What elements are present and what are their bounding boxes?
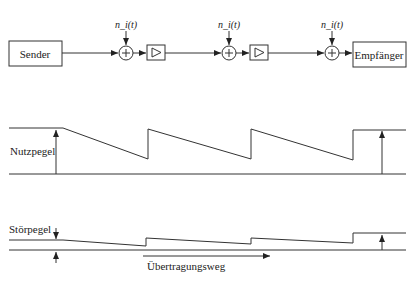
amplifier-1 <box>147 45 165 60</box>
noise-level-plot <box>9 228 406 263</box>
noise-level-curve <box>9 233 406 246</box>
useful-level-plot <box>9 128 406 174</box>
noise-label-3: n_i(t) <box>321 19 344 31</box>
amplifier-2 <box>250 45 268 60</box>
transmission-diagram: Sender Empfänger n_i(t) n_i(t) n_i(t) Nu… <box>0 0 418 286</box>
direction-label: Übertragungsweg <box>147 260 226 272</box>
receiver-label: Empfänger <box>355 49 404 61</box>
noise-label-1: n_i(t) <box>115 19 138 31</box>
noise-label-2: n_i(t) <box>218 19 241 31</box>
block-diagram <box>9 31 406 67</box>
useful-level-curve <box>9 128 406 160</box>
sender-label: Sender <box>20 48 51 60</box>
noise-level-label: Störpegel <box>9 223 51 235</box>
useful-level-label: Nutzpegel <box>10 145 55 157</box>
